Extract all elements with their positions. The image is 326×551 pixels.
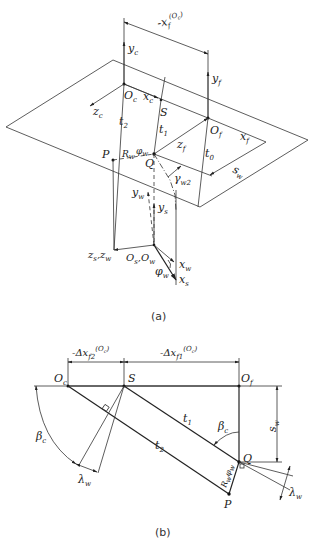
svg-text:yc: yc: [127, 42, 138, 57]
t0-line: [198, 118, 208, 207]
zs-axis: [114, 245, 154, 250]
svg-text:-Δxf1(Oc): -Δxf1(Oc): [160, 345, 198, 361]
svg-text:ys: ys: [157, 201, 168, 216]
zc-axis: [90, 84, 124, 106]
svg-text:Q: Q: [145, 157, 154, 170]
svg-text:Rw: Rw: [121, 149, 135, 161]
svg-text:Of: Of: [210, 124, 223, 139]
svg-text:φw: φw: [155, 265, 169, 280]
xw-axis: [154, 245, 174, 262]
svg-text:t2: t2: [119, 115, 128, 130]
svg-text:Os,Ow: Os,Ow: [126, 252, 155, 266]
svg-text:Oc: Oc: [54, 372, 67, 387]
svg-text:-Δxf2(Oc): -Δxf2(Oc): [72, 345, 110, 361]
svg-text:yw: yw: [131, 186, 144, 201]
caption-a: (a): [151, 310, 166, 323]
svg-text:sw: sw: [230, 163, 247, 182]
svg-text:Of: Of: [241, 372, 254, 387]
svg-text:xw: xw: [179, 258, 191, 273]
yw-axis: [148, 192, 154, 245]
panel-a: -xf(Oc) yc yf Oc xc zc S Of xf zf sw: [6, 11, 308, 323]
svg-text:S: S: [128, 372, 136, 385]
svg-text:Oc: Oc: [124, 89, 137, 104]
diagram-canvas: -xf(Oc) yc yf Oc xc zc S Of xf zf sw: [0, 0, 326, 551]
caption-b: (b): [155, 526, 171, 539]
svg-text:t1: t1: [183, 412, 192, 427]
svg-text:sw: sw: [266, 420, 281, 432]
svg-text:γw2: γw2: [174, 172, 192, 187]
svg-text:zc: zc: [92, 105, 103, 120]
svg-text:t2: t2: [155, 439, 164, 454]
svg-text:φw: φw: [136, 146, 148, 158]
svg-text:λw: λw: [288, 486, 302, 501]
svg-text:zs,zw: zs,zw: [87, 249, 111, 263]
svg-text:-xf(Oc): -xf(Oc): [156, 11, 185, 32]
lambda-left-dim: [76, 464, 97, 472]
svg-text:βc: βc: [217, 420, 228, 435]
svg-text:zf: zf: [176, 138, 187, 153]
svg-text:βc: βc: [35, 430, 46, 445]
svg-text:xs: xs: [179, 273, 189, 288]
svg-text:xf: xf: [240, 130, 250, 145]
svg-text:S: S: [160, 106, 168, 119]
svg-text:t0: t0: [205, 147, 214, 162]
svg-text:yf: yf: [211, 72, 222, 87]
svg-text:xc: xc: [143, 90, 153, 105]
svg-text:P: P: [101, 148, 110, 161]
svg-text:λw: λw: [77, 473, 91, 488]
svg-text:t1: t1: [159, 123, 168, 138]
t2-line: [114, 84, 124, 250]
svg-text:P: P: [223, 498, 232, 511]
panel-b: -Δxf2(Oc) -Δxf1(Oc) Oc S Of sw t1 t2 Q P…: [34, 345, 302, 539]
